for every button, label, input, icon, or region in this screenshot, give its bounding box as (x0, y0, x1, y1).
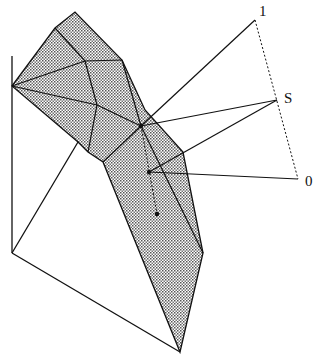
label-one: 1 (259, 3, 267, 19)
lower-point-dot (155, 212, 159, 216)
mid-point-dot (147, 170, 151, 174)
label-s: S (284, 90, 292, 106)
label-zero: 0 (305, 173, 313, 189)
shaded-surface (12, 12, 203, 352)
central-vertex-dot (139, 124, 143, 128)
simplex-mesh-diagram: 1 S 0 (0, 0, 323, 363)
